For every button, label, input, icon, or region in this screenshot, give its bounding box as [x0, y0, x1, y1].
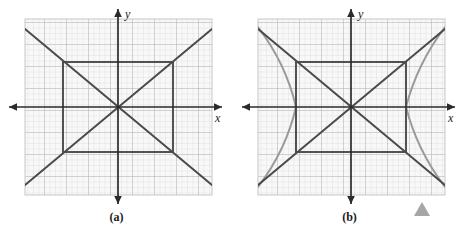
panel-a-caption: (a) — [0, 210, 233, 225]
hyperbola-figure: y x (a) — [0, 0, 466, 231]
y-axis-label: y — [124, 7, 131, 21]
x-axis-label: x — [447, 111, 454, 125]
arrow-down-icon — [347, 196, 355, 204]
y-axis-label: y — [357, 7, 364, 21]
arrow-right-icon — [447, 103, 455, 111]
arrow-up-icon — [347, 9, 355, 17]
arrow-right-icon — [214, 103, 222, 111]
panel-a-plot: y x — [0, 0, 233, 231]
panel-a: y x (a) — [0, 0, 233, 231]
x-axis-label: x — [214, 111, 221, 125]
arrow-up-icon — [114, 9, 122, 17]
arrow-left-icon — [242, 103, 250, 111]
arrow-left-icon — [9, 103, 17, 111]
panel-b: y x (b) — [233, 0, 466, 231]
panel-b-plot: y x — [233, 0, 466, 231]
triangle-marker-icon — [412, 200, 432, 218]
arrow-down-icon — [114, 196, 122, 204]
